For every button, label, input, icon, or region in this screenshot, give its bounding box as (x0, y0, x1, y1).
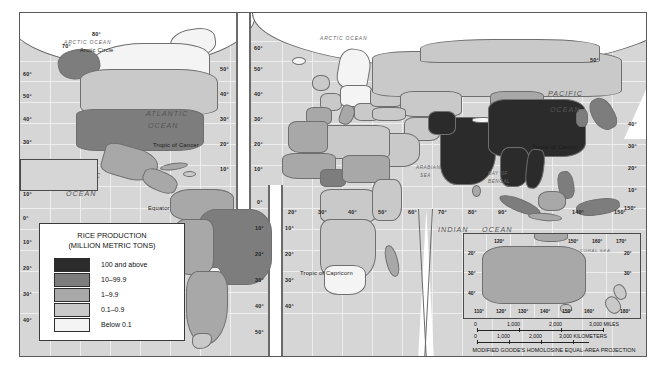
inset-tick-bottom-110: 110° (474, 308, 484, 314)
inset-label-coral-sea: CORAL SEA (580, 248, 610, 253)
tick-safr-20: 20° (285, 251, 294, 257)
inset-land-australia (482, 246, 586, 304)
tick-eq-90: 90° (498, 209, 507, 215)
tick-eur-40: 40° (254, 91, 263, 97)
tick-satl-40: 40° (255, 303, 264, 309)
inset-tick-bottom-130: 130° (518, 308, 528, 314)
tick-polar-80: 80° (92, 31, 101, 37)
tick-satl-50: 50° (255, 329, 264, 335)
tick-farright-50: 50° (590, 57, 599, 63)
tick-right-150: 150° (624, 205, 636, 211)
inset-tick-bottom-180: 180° (620, 308, 630, 314)
land-indonesia-borneo (538, 191, 566, 211)
tick-atl-30: 30° (220, 116, 229, 122)
tick-left-60: 60° (23, 71, 32, 77)
legend-label-100-and-above: 100 and above (101, 261, 147, 268)
tick-right-10: 10° (628, 187, 637, 193)
inset-tick-right-30: 30° (624, 270, 632, 276)
scale-bar-group: 0 1,000 2,000 3,000 MILES 0 1,000 2,000 … (459, 321, 647, 355)
rice-production-map-page: ARCTIC OCEAN ARCTIC OCEAN ATLANTIC OCEAN… (0, 0, 666, 370)
label-atlantic-ocean-line2: OCEAN (148, 121, 179, 130)
land-east-africa (372, 179, 402, 221)
tick-polar-70: 70° (62, 43, 71, 49)
legend-swatch-1-9 (54, 288, 90, 302)
australia-inset-map: CORAL SEA 120° 150° 160° 170° 20° 30° 40… (463, 233, 641, 319)
tick-left-0: 0° (23, 215, 29, 221)
tick-atl-40: 40° (220, 91, 229, 97)
tick-eq-140: 140° (572, 209, 584, 215)
label-tropic-of-cancer-atlantic: Tropic of Cancer (153, 142, 199, 148)
tick-left-20s: 20° (23, 265, 32, 271)
tick-safr-30: 30° (285, 277, 294, 283)
legend-title-line2: (MILLION METRIC TONS) (40, 241, 184, 251)
tick-atl-10: 10° (220, 166, 229, 172)
land-iceland (292, 57, 306, 65)
label-equator: Equator (148, 205, 170, 211)
label-arctic-circle: Arctic Circle (80, 47, 114, 53)
inset-tick-left-30: 30° (468, 270, 476, 276)
tick-satl-30: 30° (255, 277, 264, 283)
tick-safr-10: 10° (285, 225, 294, 231)
legend-label-below-01: Below 0.1 (101, 321, 132, 328)
land-turkey (372, 107, 406, 121)
projection-note: MODIFIED GOODE'S HOMOLOSINE EQUAL-AREA P… (459, 347, 647, 353)
pacific-meridian-inset-box (20, 159, 98, 191)
label-arabian-sea-line2: SEA (420, 173, 431, 178)
inset-tick-top-120: 120° (494, 238, 504, 244)
tick-safr-40: 40° (285, 303, 294, 309)
tick-eq-50: 50° (378, 209, 387, 215)
tick-satl-20: 20° (255, 251, 264, 257)
inset-tick-top-150: 150° (568, 238, 578, 244)
tick-satl-10: 10° (255, 225, 264, 231)
lobe-gap-atlantic (236, 13, 250, 213)
tick-right-20: 20° (628, 165, 637, 171)
land-hispaniola (183, 171, 196, 177)
land-british-isles (312, 75, 330, 91)
legend-label-1-9: 1–9.9 (101, 291, 119, 298)
scale-miles-1000: 1,000 (507, 321, 520, 327)
tick-eq-20: 20° (288, 209, 297, 215)
scale-miles-2000: 2,000 (549, 321, 562, 327)
tick-eq-80: 80° (468, 209, 477, 215)
scale-miles-0: 0 (474, 321, 477, 327)
label-pacific-ocean-right-line1: PACIFIC (548, 89, 583, 98)
legend-title-line1: RICE PRODUCTION (40, 231, 184, 241)
legend-row: 100 and above (54, 257, 184, 272)
inset-tick-left-40: 40° (468, 290, 476, 296)
inset-tick-bottom-120: 120° (496, 308, 506, 314)
inset-tick-bottom-150: 150° (562, 308, 572, 314)
legend-swatch-100-and-above (54, 258, 90, 272)
tick-left-10s: 10° (23, 239, 32, 245)
label-pacific-ocean-right-line2: OCEAN (550, 105, 581, 114)
tick-right-30: 30° (628, 143, 637, 149)
tick-satl-0: 0° (257, 199, 263, 205)
label-tropic-of-capricorn: Tropic of Capricorn (300, 270, 353, 276)
legend-row: 10–99.9 (54, 272, 184, 287)
legend-row: 0.1–0.9 (54, 302, 184, 317)
legend-row: 1–9.9 (54, 287, 184, 302)
label-atlantic-ocean-line1: ATLANTIC (146, 109, 188, 118)
tick-left-30s: 30° (23, 291, 32, 297)
legend-swatch-01-09 (54, 303, 90, 317)
label-tropic-of-cancer-pacific: Tropic of Cancer (532, 144, 578, 150)
inset-land-png (534, 233, 568, 242)
label-bay-of-bengal-line2: BENGAL (488, 179, 510, 184)
land-siberia-north (420, 39, 600, 63)
tick-right-40: 40° (628, 121, 637, 127)
tick-eur-10: 10° (254, 166, 263, 172)
label-arctic-ocean-left: ARCTIC OCEAN (64, 39, 111, 45)
world-map: ARCTIC OCEAN ARCTIC OCEAN ATLANTIC OCEAN… (19, 12, 647, 357)
inset-tick-right-20: 20° (624, 250, 632, 256)
tick-left-50: 50° (23, 93, 32, 99)
scale-km-0: 0 (474, 333, 477, 339)
inset-tick-bottom-160: 160° (584, 308, 594, 314)
scale-km-3000: 3,000 KILOMETERS (559, 333, 607, 339)
legend-rows: 100 and above 10–99.9 1–9.9 0.1–0.9 Belo… (54, 257, 184, 332)
tick-left-30: 30° (23, 139, 32, 145)
tick-eq-70: 70° (438, 209, 447, 215)
tick-eq-30: 30° (318, 209, 327, 215)
inset-tick-left-20: 20° (468, 250, 476, 256)
scale-km-1000: 1,000 (497, 333, 510, 339)
scale-miles-3000: 3,000 MILES (589, 321, 619, 327)
tick-eq-60: 60° (408, 209, 417, 215)
